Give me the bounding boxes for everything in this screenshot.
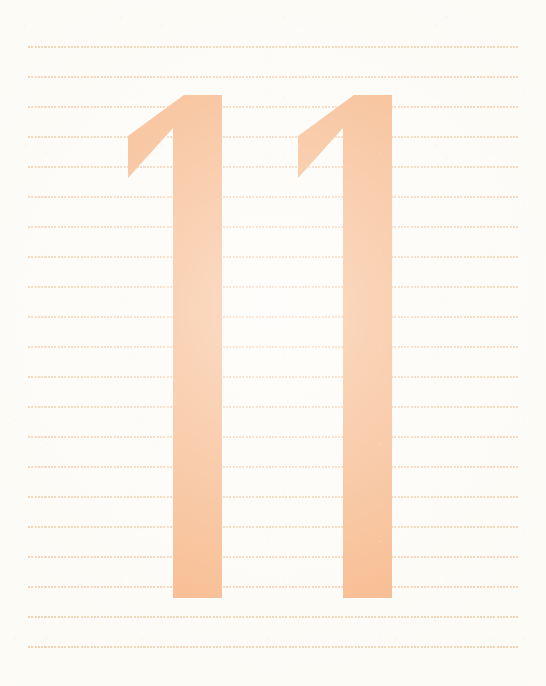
- practice-numerals-group: [0, 0, 546, 686]
- numeral-one-second: [0, 0, 546, 686]
- handwriting-practice-worksheet: [0, 0, 546, 686]
- numeral-glyph-shape: [298, 95, 392, 598]
